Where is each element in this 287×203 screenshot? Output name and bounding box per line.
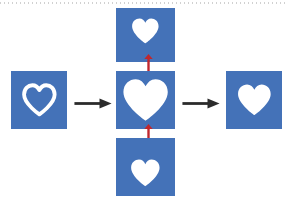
input-panel-label: Input heart outline — [0, 0, 1, 1]
figure-title: Heart shape morphological transformation… — [0, 0, 1, 1]
top-panel-label: Small heart, upper position — [0, 0, 1, 1]
center-panel-label: Large filled heart — [0, 0, 1, 1]
heart-outline-icon — [22, 83, 57, 117]
diagram-canvas: Input heart outline Input to center Smal… — [0, 0, 287, 203]
arrow-red-bottom-label: Center and bottom bidirectional link — [0, 0, 1, 1]
arrow-right-icon-center-to-output — [182, 97, 220, 110]
heart-filled-icon-top — [130, 18, 161, 44]
arrow-right-icon-input-to-center — [74, 97, 112, 110]
output-panel-label: Output filled heart — [0, 0, 1, 1]
arrow-2-label: Center to output — [0, 0, 1, 1]
arrow-red-top-label: Top and center bidirectional link — [0, 0, 1, 1]
heart-filled-icon-output — [237, 83, 272, 117]
dotted-top-rule — [0, 2, 287, 4]
arrow-1-label: Input to center — [0, 0, 1, 1]
bottom-panel-label: Small heart, lower position — [0, 0, 1, 1]
heart-filled-icon-bottom — [130, 159, 161, 187]
heart-filled-icon-center — [122, 78, 169, 122]
